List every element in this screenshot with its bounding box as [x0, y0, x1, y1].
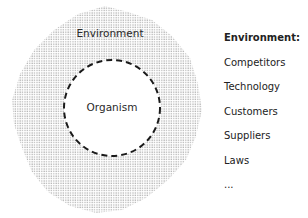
list-item-ellipsis: ... [224, 173, 300, 198]
environment-label: Environment [5, 27, 215, 39]
list-item-suppliers: Suppliers [224, 124, 300, 149]
list-item-competitors: Competitors [224, 51, 300, 76]
environment-factors-list: Environment: Competitors Technology Cust… [224, 26, 300, 198]
organism-label: Organism [7, 101, 217, 113]
environment-organism-diagram: Environment Organism [0, 0, 210, 218]
list-heading: Environment: [224, 26, 300, 51]
list-item-customers: Customers [224, 100, 300, 125]
list-item-technology: Technology [224, 75, 300, 100]
list-item-laws: Laws [224, 149, 300, 174]
